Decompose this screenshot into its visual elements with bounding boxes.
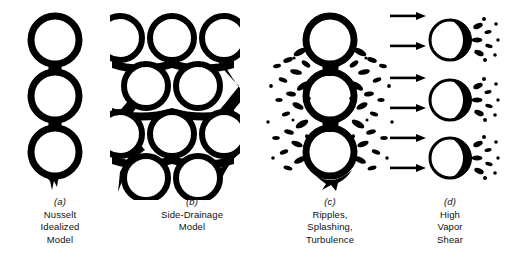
vapor-arrow-6 xyxy=(390,164,426,172)
panel-b-tube-r3-c1 xyxy=(98,112,142,156)
panel-b-tube-r4-c2 xyxy=(176,156,220,200)
vapor-arrow-4 xyxy=(390,104,426,112)
panel-b-caption: (b) Side-Drainage Model xyxy=(140,196,244,234)
panel-b-tube-r2-c1 xyxy=(124,64,168,108)
panel-a-tube-1 xyxy=(31,16,79,64)
panel-a-tube-3 xyxy=(31,128,79,176)
panel-a-caption-line-1: Nusselt xyxy=(14,209,106,221)
panel-c-caption: (c) Ripples, Splashing, Turbulence xyxy=(276,196,384,246)
panel-d-caption-line-1: High xyxy=(404,209,496,221)
vapor-arrow-5 xyxy=(390,134,426,142)
panel-c-tube-1 xyxy=(306,16,354,64)
panel-b-tube-r1-c2 xyxy=(150,16,194,60)
vapor-arrow-3 xyxy=(390,74,426,82)
panel-c-caption-line-2: Splashing, xyxy=(276,221,384,233)
panel-a-bridge-1 xyxy=(47,62,63,74)
panel-d-tube-group-2 xyxy=(430,77,500,122)
panel-c-bridge-1 xyxy=(320,62,341,76)
panel-a-caption-line-3: Model xyxy=(14,234,106,246)
panel-d-tag: (d) xyxy=(404,196,496,208)
panel-d-vapor-arrows xyxy=(390,12,426,172)
panel-d-tube-group-3 xyxy=(430,135,500,180)
panel-b-tag: (b) xyxy=(140,196,244,208)
panel-c-caption-line-1: Ripples, xyxy=(276,209,384,221)
panel-c-bridge-2 xyxy=(320,118,341,132)
panel-captions: (a) Nusselt Idealized Model (b) Side-Dra… xyxy=(0,196,505,264)
panel-b-tube-r1-c3 xyxy=(202,16,246,60)
vapor-arrow-1 xyxy=(390,12,426,20)
panel-b-caption-line-2: Model xyxy=(140,221,244,233)
panel-b-artwork xyxy=(98,16,246,200)
panel-d-caption: (d) High Vapor Shear xyxy=(404,196,496,246)
panel-b-tube-r1-c1 xyxy=(98,16,142,60)
panel-d-caption-line-2: Vapor xyxy=(404,221,496,233)
panel-c-tube-2 xyxy=(306,72,354,120)
panel-b-tube-r3-c2 xyxy=(150,112,194,156)
panel-b-tube-r2-c2 xyxy=(176,64,220,108)
figure-artwork xyxy=(0,0,505,200)
panel-c-caption-line-3: Turbulence xyxy=(276,234,384,246)
panel-a-bridge-2 xyxy=(47,118,63,130)
panel-c-tube-3 xyxy=(306,128,354,176)
panel-b-tube-r4-c1 xyxy=(124,156,168,200)
panel-a-caption: (a) Nusselt Idealized Model xyxy=(14,196,106,246)
vapor-arrow-2 xyxy=(390,42,426,50)
panel-d-artwork xyxy=(390,12,500,180)
panel-a-caption-line-2: Idealized xyxy=(14,221,106,233)
panel-b-tube-r3-c3 xyxy=(202,112,246,156)
panel-c-artwork xyxy=(266,16,393,191)
panel-d-caption-line-3: Shear xyxy=(404,234,496,246)
panel-b-caption-line-1: Side-Drainage xyxy=(140,209,244,221)
panel-a-artwork xyxy=(31,16,79,190)
panel-d-tube-group-1 xyxy=(430,17,500,62)
figure-condensation-flow-modes: (a) Nusselt Idealized Model (b) Side-Dra… xyxy=(0,0,505,264)
panel-c-tag: (c) xyxy=(276,196,384,208)
panel-a-tube-2 xyxy=(31,72,79,120)
panel-a-tag: (a) xyxy=(14,196,106,208)
